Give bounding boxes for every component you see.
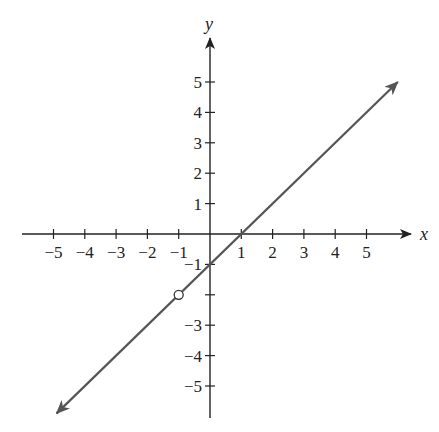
y-tick-label: 4: [194, 103, 203, 122]
x-tick-label: −5: [44, 243, 62, 262]
x-tick-label: −4: [76, 243, 95, 262]
y-tick-label: −4: [184, 347, 203, 366]
graph-canvas: −5−4−3−2−11234554321−1−3−4−5 x y: [0, 0, 439, 432]
x-tick-label: 1: [237, 243, 246, 262]
x-tick-label: 4: [331, 243, 340, 262]
y-tick-label: −1: [184, 255, 202, 274]
x-axis-label: x: [419, 224, 428, 244]
y-tick-label: −3: [184, 316, 202, 335]
x-tick-label: −3: [107, 243, 125, 262]
x-tick-label: −2: [138, 243, 156, 262]
y-tick-label: 2: [194, 164, 203, 183]
y-tick-label: 1: [194, 195, 203, 214]
y-tick-label: 5: [194, 73, 203, 92]
x-tick-label: 2: [268, 243, 277, 262]
x-tick-label: 5: [362, 243, 371, 262]
open-circle-hole: [174, 290, 183, 299]
line-start-arrow: [57, 412, 58, 413]
y-tick-label: 3: [194, 134, 203, 153]
annotations: [174, 290, 183, 299]
x-tick-label: 3: [300, 243, 309, 262]
y-axis-label: y: [203, 14, 213, 34]
axes: [22, 38, 411, 418]
y-tick-label: −5: [184, 377, 202, 396]
